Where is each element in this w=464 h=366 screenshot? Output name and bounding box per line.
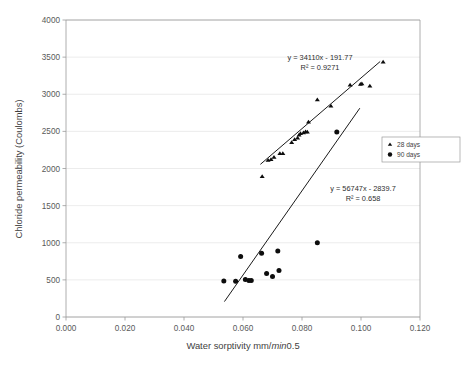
y-tick-label-5: 2500	[42, 127, 61, 136]
equation-28-days-line-0: y = 34110x - 191.77	[288, 53, 353, 62]
equation-90-days-line-1: R² = 0.658	[346, 194, 381, 203]
y-tick-label-7: 3500	[42, 53, 61, 62]
legend-label-0: 28 days	[397, 141, 421, 149]
chart-background	[0, 0, 464, 366]
x-axis-title-run: 0.5	[287, 340, 300, 351]
equation-90-days-line-0: y = 56747x - 2839.7	[330, 184, 396, 193]
data-point-90-days-12	[334, 130, 339, 135]
x-tick-label-3: 0.060	[233, 324, 254, 333]
x-axis-title-italic-run: min	[271, 340, 286, 351]
x-axis-title: Water sorptivity mm/min0.5	[186, 340, 299, 351]
chart-legend[interactable]: 28 days90 days	[382, 137, 460, 162]
y-tick-label-6: 3000	[42, 90, 61, 99]
data-point-90-days-0	[221, 278, 226, 283]
x-tick-label-5: 0.100	[351, 324, 372, 333]
y-tick-label-2: 1000	[42, 239, 61, 248]
legend-circle-marker-icon	[388, 152, 392, 156]
data-point-90-days-11	[315, 240, 320, 245]
y-tick-label-3: 1500	[42, 202, 61, 211]
x-tick-label-0: 0.000	[56, 324, 77, 333]
x-tick-label-2: 0.040	[174, 324, 195, 333]
y-tick-label-4: 2000	[42, 165, 61, 174]
data-point-90-days-6	[259, 251, 264, 256]
y-tick-label-1: 500	[46, 276, 60, 285]
x-tick-label-4: 0.080	[292, 324, 313, 333]
data-point-90-days-9	[275, 248, 280, 253]
scatter-chart: 0.0000.0200.0400.0600.0800.1000.120 0500…	[0, 0, 464, 366]
data-point-90-days-8	[270, 274, 275, 279]
legend-label-1: 90 days	[397, 151, 421, 159]
data-point-90-days-1	[233, 279, 238, 284]
x-tick-label-6: 0.120	[410, 324, 431, 333]
y-tick-label-8: 4000	[42, 16, 61, 25]
data-point-90-days-2	[238, 254, 243, 259]
data-point-90-days-10	[276, 268, 281, 273]
legend-box	[382, 137, 460, 162]
data-point-90-days-5	[249, 278, 254, 283]
y-tick-label-0: 0	[55, 313, 60, 322]
y-axis-title: Chloride permeability (Coulombs)	[13, 99, 24, 238]
equation-28-days-line-1: R² = 0.9271	[301, 63, 340, 72]
x-tick-label-1: 0.020	[115, 324, 136, 333]
chart-container: 0.0000.0200.0400.0600.0800.1000.120 0500…	[0, 0, 464, 366]
x-axis-title-run: Water sorptivity mm/	[186, 340, 271, 351]
data-point-90-days-7	[264, 271, 269, 276]
